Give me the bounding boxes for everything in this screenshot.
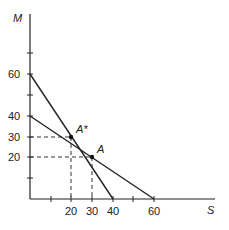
label-a: A [96, 143, 104, 155]
y-tick-20: 20 [8, 151, 20, 163]
y-tick-40: 40 [8, 110, 20, 122]
x-tick-40: 40 [107, 205, 119, 217]
x-tick-30: 30 [86, 205, 98, 217]
chart: A* A M S 60 40 30 20 20 30 40 60 [0, 0, 229, 230]
x-tick-20: 20 [65, 205, 77, 217]
y-axis-label: M [13, 12, 23, 24]
point-a [90, 155, 94, 159]
point-a-star [69, 135, 73, 139]
label-a-star: A* [75, 123, 88, 135]
x-axis-label: S [207, 204, 215, 216]
x-tick-60: 60 [148, 205, 160, 217]
guide-lines [30, 137, 92, 199]
y-tick-60: 60 [8, 68, 20, 80]
y-tick-30: 30 [8, 131, 20, 143]
